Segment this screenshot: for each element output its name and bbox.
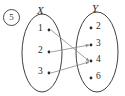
right-element-label-3: 3 bbox=[96, 38, 101, 48]
right-element-dot-6 bbox=[90, 77, 93, 80]
left-element-label-3: 3 bbox=[38, 66, 43, 76]
right-element-dot-3 bbox=[90, 44, 93, 47]
set-label-y: Y bbox=[92, 2, 98, 14]
mapping-diagram-figure: 5 X Y 1 2 3 2 3 4 6 bbox=[0, 0, 125, 96]
left-element-label-2: 2 bbox=[38, 45, 43, 55]
arrow-1-to-4 bbox=[51, 30, 89, 61]
left-element-dot-1 bbox=[48, 29, 51, 32]
left-element-dot-2 bbox=[48, 51, 51, 54]
right-element-dot-4 bbox=[90, 60, 93, 63]
arrow-2-to-3 bbox=[51, 45, 89, 52]
left-element-label-1: 1 bbox=[38, 23, 43, 33]
item-number-badge: 5 bbox=[3, 9, 20, 26]
set-label-x: X bbox=[37, 4, 44, 16]
arrow-3-to-4 bbox=[51, 62, 89, 73]
right-element-dot-2 bbox=[90, 27, 93, 30]
left-element-dot-3 bbox=[48, 72, 51, 75]
right-element-label-4: 4 bbox=[96, 54, 101, 64]
right-element-label-2: 2 bbox=[96, 21, 101, 31]
right-element-label-6: 6 bbox=[96, 71, 101, 81]
